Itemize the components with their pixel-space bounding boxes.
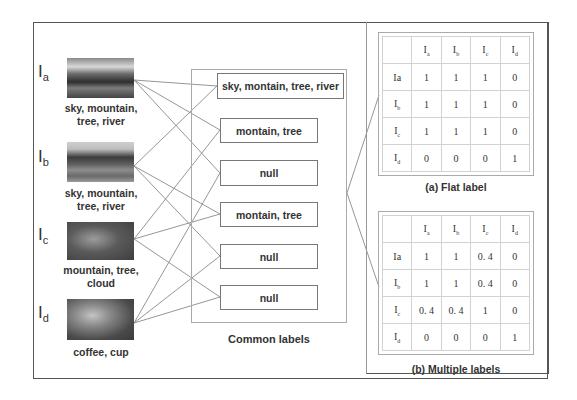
matrix-cell: 1 [441, 270, 470, 297]
matrix-row: Ia 1 1 1 0 [383, 64, 530, 91]
matrix-row-header: Id [383, 324, 412, 351]
matrix-cell: 1 [412, 64, 441, 91]
matrix-header-row: Ia Ib Ic Id [383, 37, 530, 64]
matrix-row: Ic 0. 4 0. 4 1 0 [383, 297, 530, 324]
common-label-box-ab: sky, montain, tree, river [217, 73, 344, 99]
matrix-row: Ia 1 1 0. 4 0 [383, 243, 530, 270]
matrix-cell: 0 [500, 91, 529, 118]
matrix-cell: 0 [441, 324, 470, 351]
image-caption-b: sky, mountain, tree, river [56, 187, 146, 213]
matrix-flat-label-caption: (a) Flat label [378, 181, 534, 193]
matrix-col-header: Ib [441, 216, 470, 243]
matrix-col-header: Ia [412, 216, 441, 243]
matrix-cell: 0 [471, 324, 500, 351]
matrix-col-header: Id [500, 37, 529, 64]
matrix-flat-label: Ia Ib Ic Id Ia 1 1 1 0 Ib 1 1 1 0 Ic 1 1… [378, 32, 534, 176]
matrix-row: Ic 1 1 1 0 [383, 118, 530, 145]
matrix-cell: 1 [500, 324, 529, 351]
matrix-cell: 1 [441, 243, 470, 270]
matrix-cell: 1 [471, 91, 500, 118]
matrix-cell: 0. 4 [412, 297, 441, 324]
matrix-multiple-labels: Ia Ib Ic Id Ia 1 1 0. 4 0 Ib 1 1 0. 4 0 … [378, 211, 534, 355]
matrix-cell: 1 [441, 91, 470, 118]
matrix-cell: 0. 4 [441, 297, 470, 324]
matrix-cell: 0. 4 [471, 243, 500, 270]
image-label-a: Ia [38, 62, 49, 83]
matrix-corner-cell [383, 37, 412, 64]
matrix-row: Id 0 0 0 1 [383, 145, 530, 172]
matrix-cell: 1 [471, 297, 500, 324]
matrix-header-row: Ia Ib Ic Id [383, 216, 530, 243]
matrix-row-header: Ia [383, 243, 412, 270]
matrix-cell: 1 [441, 118, 470, 145]
matrix-row: Ib 1 1 0. 4 0 [383, 270, 530, 297]
image-label-c: Ic [38, 225, 48, 246]
image-caption-a: sky, mountain, tree, river [56, 102, 146, 128]
matrix-cell: 0 [412, 145, 441, 172]
matrix-cell: 1 [471, 118, 500, 145]
image-thumbnail-landscape-river [67, 58, 134, 98]
matrix-cell: 1 [471, 64, 500, 91]
matrix-col-header: Ic [471, 37, 500, 64]
matrix-cell: 1 [412, 243, 441, 270]
matrix-cell: 0 [500, 64, 529, 91]
matrix-cell: 1 [412, 270, 441, 297]
matrix-row: Id 0 0 0 1 [383, 324, 530, 351]
image-label-d: Id [38, 303, 49, 324]
image-caption-d: coffee, cup [56, 346, 146, 359]
matrix-row: Ib 1 1 1 0 [383, 91, 530, 118]
common-labels-title: Common labels [191, 333, 347, 345]
matrix-col-header: Ic [471, 216, 500, 243]
common-label-box-bc: montain, tree [220, 202, 318, 227]
caption-line: sky, mountain, [56, 102, 146, 115]
matrix-col-header: Ia [412, 37, 441, 64]
matrix-cell: 1 [412, 91, 441, 118]
matrix-cell: 1 [412, 118, 441, 145]
matrix-cell: 0. 4 [471, 270, 500, 297]
matrix-cell: 0 [500, 243, 529, 270]
matrix-table: Ia Ib Ic Id Ia 1 1 0. 4 0 Ib 1 1 0. 4 0 … [382, 215, 530, 351]
matrix-table: Ia Ib Ic Id Ia 1 1 1 0 Ib 1 1 1 0 Ic 1 1… [382, 36, 530, 172]
matrix-row-header: Ic [383, 297, 412, 324]
common-label-box-ad: null [220, 160, 318, 186]
matrix-row-header: Ia [383, 64, 412, 91]
image-caption-c: mountain, tree, cloud [56, 264, 146, 290]
matrix-multiple-labels-caption: (b) Multiple labels [378, 363, 534, 375]
matrix-cell: 0 [412, 324, 441, 351]
caption-line: sky, mountain, [56, 187, 146, 200]
matrix-cell: 1 [500, 145, 529, 172]
matrix-cell: 0 [500, 118, 529, 145]
image-thumbnail-mountain-cloud [67, 222, 134, 260]
caption-line: mountain, tree, [56, 264, 146, 277]
caption-line: tree, river [56, 200, 146, 213]
matrix-row-header: Ib [383, 91, 412, 118]
caption-line: coffee, cup [56, 346, 146, 359]
caption-line: cloud [56, 277, 146, 290]
matrix-corner-cell [383, 216, 412, 243]
matrix-row-header: Ic [383, 118, 412, 145]
caption-line: tree, river [56, 115, 146, 128]
matrix-cell: 0 [500, 297, 529, 324]
common-label-box-cd: null [220, 285, 318, 310]
matrix-row-header: Ib [383, 270, 412, 297]
matrix-cell: 0 [471, 145, 500, 172]
matrix-cell: 0 [500, 270, 529, 297]
common-label-box-ac: montain, tree [220, 118, 318, 143]
matrix-col-header: Ib [441, 37, 470, 64]
matrix-cell: 1 [441, 64, 470, 91]
matrix-cell: 0 [441, 145, 470, 172]
matrix-row-header: Id [383, 145, 412, 172]
image-label-b: Ib [38, 147, 49, 168]
image-thumbnail-coffee-cup [67, 299, 134, 340]
image-thumbnail-landscape-meadow [67, 142, 134, 182]
matrix-col-header: Id [500, 216, 529, 243]
common-label-box-bd: null [220, 244, 318, 269]
